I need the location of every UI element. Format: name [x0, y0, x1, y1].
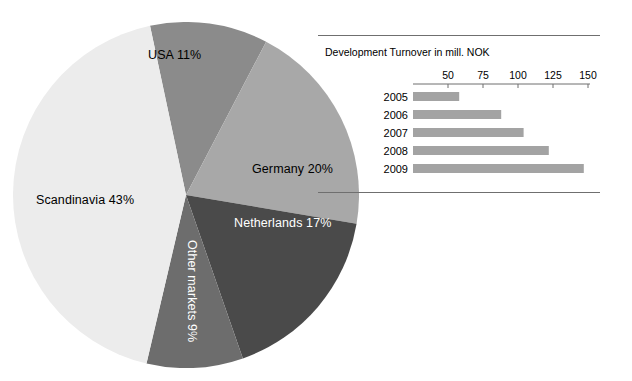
bar-category-labels: 20052006200720082009	[384, 91, 408, 175]
bar-axis-tick-label: 50	[442, 69, 454, 81]
panel-bottom-divider	[318, 192, 600, 193]
bar-category-label-2007: 2007	[384, 127, 408, 139]
bar-chart-title: Development Turnover in mill. NOK	[325, 46, 490, 58]
bar-chart-svg: 5075100125150 20052006200720082009	[318, 60, 618, 185]
bar-axis-tick-labels: 5075100125150	[442, 69, 597, 81]
bar-axis-tick-label: 125	[544, 69, 562, 81]
bar-category-label-2006: 2006	[384, 109, 408, 121]
pie-label-usa: USA 11%	[148, 48, 201, 62]
figure-canvas: USA 11% Germany 20% Netherlands 17% Othe…	[0, 0, 632, 381]
bar-axis-tick-label: 75	[477, 69, 489, 81]
bar-axis-tick-label: 100	[509, 69, 527, 81]
bar-category-label-2008: 2008	[384, 145, 408, 157]
bar-axis-tick-label: 150	[579, 69, 597, 81]
bar-category-label-2009: 2009	[384, 163, 408, 175]
panel-top-divider	[318, 35, 600, 36]
bar-2006	[413, 110, 501, 119]
turnover-bar-panel: Development Turnover in mill. NOK 507510…	[318, 28, 618, 198]
bar-2005	[413, 92, 459, 101]
bar-2008	[413, 146, 549, 155]
bar-2007	[413, 128, 524, 137]
bar-category-label-2005: 2005	[384, 91, 408, 103]
pie-label-netherlands: Netherlands 17%	[234, 216, 331, 230]
pie-label-other-markets: Other markets 9%	[185, 240, 199, 342]
bar-2009	[413, 164, 584, 173]
bar-chart-plot: 5075100125150 20052006200720082009	[318, 60, 618, 185]
pie-label-scandinavia: Scandinavia 43%	[36, 193, 134, 207]
bar-axis-line-group	[413, 84, 590, 88]
bar-series-group	[413, 92, 584, 173]
